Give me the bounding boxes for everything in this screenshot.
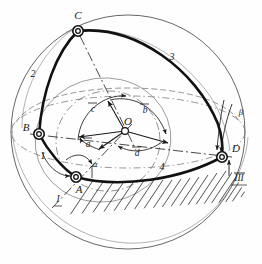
node-label-D: D bbox=[231, 142, 240, 154]
node-label-C: C bbox=[74, 9, 82, 21]
link-4-arc bbox=[76, 157, 222, 182]
angle-arc-ac bbox=[78, 96, 126, 140]
node-label-A: A bbox=[75, 183, 83, 195]
ground-hatching bbox=[70, 152, 262, 225]
angle-arc-alpha bbox=[66, 155, 92, 164]
axis-label-I: I bbox=[55, 194, 60, 204]
figure-root: C B A D O 1 2 3 4 a b c d α β I bbox=[0, 0, 262, 264]
joint-B[interactable] bbox=[34, 129, 44, 139]
angle-arc-cb bbox=[110, 99, 166, 134]
link-2-arc bbox=[39, 31, 78, 134]
joint-C[interactable] bbox=[73, 26, 83, 36]
angle-label-alpha: α bbox=[93, 159, 98, 169]
axis-label-III: III bbox=[233, 173, 244, 183]
link-label-4: 4 bbox=[160, 161, 165, 172]
companion-arc-bc bbox=[22, 30, 72, 128]
axis-line-II bbox=[30, 134, 232, 157]
link-label-2: 2 bbox=[31, 68, 36, 79]
link-label-1: 1 bbox=[41, 150, 46, 161]
vector-label-b-text: b bbox=[143, 105, 148, 115]
vector-c-arrow bbox=[108, 101, 125, 131]
angle-arc-bd bbox=[118, 141, 163, 151]
angle-arc-link1 bbox=[42, 152, 70, 176]
vector-label-b: b bbox=[140, 104, 149, 115]
joint-D[interactable] bbox=[217, 152, 227, 162]
joint-A[interactable] bbox=[71, 172, 81, 182]
vector-label-a-text: a bbox=[86, 139, 91, 149]
vector-label-d-text: d bbox=[135, 148, 140, 158]
node-label-B: B bbox=[23, 121, 30, 133]
vector-label-c: c bbox=[88, 103, 97, 114]
vector-label-a: a bbox=[83, 138, 92, 149]
spherical-linkage-diagram: C B A D O 1 2 3 4 a b c d α β I bbox=[0, 0, 262, 264]
angle-label-beta: β bbox=[238, 107, 244, 117]
vector-label-d: d bbox=[132, 147, 141, 158]
node-label-O: O bbox=[124, 115, 132, 127]
link-label-3: 3 bbox=[169, 51, 175, 62]
joint-O-center[interactable] bbox=[122, 128, 129, 135]
